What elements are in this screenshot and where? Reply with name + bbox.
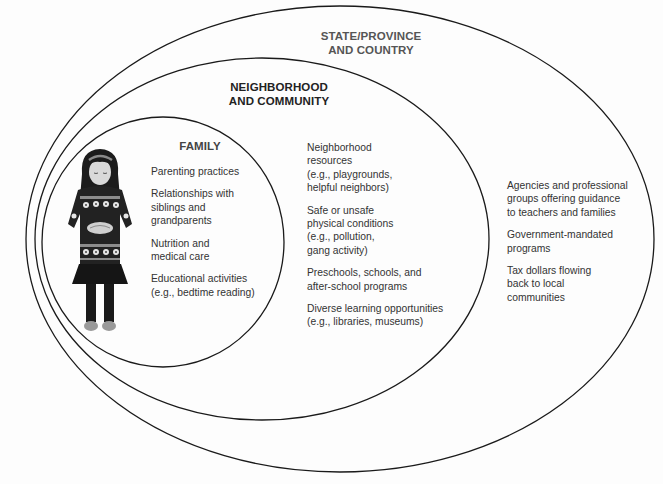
item-line: Relationships with — [151, 187, 255, 200]
item-line: gang activity) — [307, 244, 443, 257]
item-line: after-school programs — [307, 280, 443, 293]
family-item: Educational activities (e.g., bedtime re… — [151, 272, 255, 299]
family-item: Nutrition and medical care — [151, 237, 255, 264]
heading-line: STATE/PROVINCE — [316, 29, 426, 43]
item-line: Neighborhood — [307, 141, 443, 154]
neighborhood-item: Diverse learning opportunities (e.g., li… — [307, 302, 443, 329]
family-items: Parenting practices Relationships with s… — [151, 165, 255, 308]
item-line: communities — [507, 291, 628, 304]
state-items: Agencies and professional groups offerin… — [507, 179, 628, 313]
item-line: (e.g., playgrounds, — [307, 168, 443, 181]
neighborhood-item: Safe or unsafe physical conditions (e.g.… — [307, 204, 443, 258]
item-line: Preschools, schools, and — [307, 266, 443, 279]
item-line: Nutrition and — [151, 237, 255, 250]
item-line: grandparents — [151, 214, 255, 227]
item-line: Agencies and professional — [507, 179, 628, 192]
heading-line: NEIGHBORHOOD — [214, 80, 344, 94]
state-item: Government-mandated programs — [507, 228, 628, 255]
neighborhood-heading: NEIGHBORHOOD AND COMMUNITY — [214, 80, 344, 108]
family-item: Relationships with siblings and grandpar… — [151, 187, 255, 227]
state-item: Agencies and professional groups offerin… — [507, 179, 628, 219]
family-heading: FAMILY — [170, 139, 230, 153]
item-line: Diverse learning opportunities — [307, 302, 443, 315]
item-line: Safe or unsafe — [307, 204, 443, 217]
item-line: helpful neighbors) — [307, 181, 443, 194]
heading-line: FAMILY — [170, 139, 230, 153]
item-line: medical care — [151, 250, 255, 263]
item-line: physical conditions — [307, 217, 443, 230]
heading-line: AND COUNTRY — [316, 43, 426, 57]
family-item: Parenting practices — [151, 165, 255, 178]
state-item: Tax dollars flowing back to local commun… — [507, 264, 628, 304]
item-line: to teachers and families — [507, 206, 628, 219]
item-line: (e.g., bedtime reading) — [151, 286, 255, 299]
item-line: (e.g., libraries, museums) — [307, 315, 443, 328]
item-line: programs — [507, 242, 628, 255]
item-line: siblings and — [151, 201, 255, 214]
item-line: resources — [307, 154, 443, 167]
item-line: Educational activities — [151, 272, 255, 285]
girl-illustration-icon — [60, 146, 140, 336]
neighborhood-item: Neighborhood resources (e.g., playground… — [307, 141, 443, 195]
item-line: Government-mandated — [507, 228, 628, 241]
item-line: (e.g., pollution, — [307, 230, 443, 243]
neighborhood-items: Neighborhood resources (e.g., playground… — [307, 141, 443, 338]
item-line: groups offering guidance — [507, 192, 628, 205]
neighborhood-item: Preschools, schools, and after-school pr… — [307, 266, 443, 293]
item-line: Tax dollars flowing — [507, 264, 628, 277]
item-line: back to local — [507, 277, 628, 290]
state-province-heading: STATE/PROVINCE AND COUNTRY — [316, 29, 426, 57]
item-line: Parenting practices — [151, 165, 255, 178]
heading-line: AND COMMUNITY — [214, 94, 344, 108]
